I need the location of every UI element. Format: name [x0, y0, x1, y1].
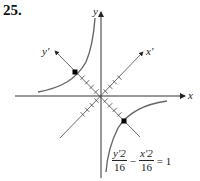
equation-term2: x′2 16	[139, 148, 154, 173]
y-prime-axis	[55, 51, 140, 137]
term2-numerator: x′2	[139, 148, 154, 161]
x-prime-label: x′	[145, 45, 154, 57]
y-axis-label: y	[92, 5, 98, 17]
term2-denominator: 16	[141, 161, 152, 173]
y-prime-label: y′	[41, 45, 50, 57]
tick-mark	[103, 89, 107, 93]
x-axis-label: x	[187, 89, 193, 101]
tick-mark	[108, 85, 112, 89]
vertex-lower-right	[122, 119, 127, 124]
equation-term1: y′2 16	[112, 148, 127, 173]
term1-numerator: y′2	[112, 148, 127, 161]
equation-operator: −	[130, 155, 136, 167]
equation-rhs: = 1	[157, 155, 171, 167]
hyperbola-equation: y′2 16 − x′2 16 = 1	[112, 148, 171, 173]
term1-denominator: 16	[114, 161, 125, 173]
vertex-upper-left	[73, 70, 78, 75]
